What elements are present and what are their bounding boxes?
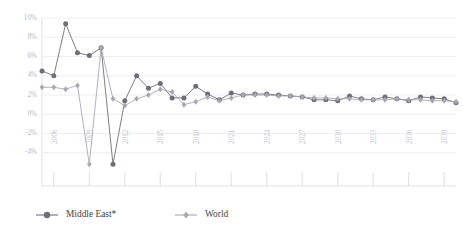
data-point-marker xyxy=(193,99,198,105)
x-axis-tick-label: 2009 xyxy=(86,129,94,144)
x-axis-tick-label: 2012 xyxy=(122,129,130,144)
data-point-marker xyxy=(134,73,139,78)
gridlines-group xyxy=(42,18,456,186)
data-point-marker xyxy=(158,81,163,86)
data-point-marker xyxy=(111,96,116,102)
y-axis-tick-label: 0% xyxy=(27,110,37,118)
data-point-marker xyxy=(181,95,186,100)
x-axis-tick-label: 2027 xyxy=(299,129,307,144)
data-point-marker xyxy=(63,21,68,26)
data-point-marker xyxy=(241,92,246,98)
x-axis-tick-label: 2036 xyxy=(406,129,414,144)
legend-marker-circle xyxy=(44,212,50,218)
x-axis-tick-label: 2015 xyxy=(157,129,165,144)
y-axis-tick-label: 8% xyxy=(27,33,37,41)
series-line-circle xyxy=(42,24,456,165)
data-point-marker xyxy=(229,95,234,101)
data-point-marker xyxy=(229,91,234,96)
x-axis-tick-label: 2024 xyxy=(264,129,272,144)
data-point-marker xyxy=(99,45,104,51)
y-axis-tick-label: 2% xyxy=(27,91,37,99)
y-axis-tick-label: 6% xyxy=(27,52,37,60)
y-axis-tick-labels: 10%8%6%4%2%0%-2%-4% xyxy=(24,14,37,157)
y-axis-tick-label: -4% xyxy=(25,148,37,156)
legend-label[interactable]: World xyxy=(205,209,229,219)
x-axis-tick-label: 2039 xyxy=(441,129,449,144)
chart-container: 10%8%6%4%2%0%-2%-4% 20062009201220152018… xyxy=(0,0,463,245)
legend-marker-diamond xyxy=(183,211,189,218)
x-axis-tick-label: 2033 xyxy=(370,129,378,144)
x-axis-tick-label: 2006 xyxy=(51,129,59,144)
y-axis-tick-label: -2% xyxy=(25,129,37,137)
y-axis-tick-label: 10% xyxy=(24,14,37,22)
data-point-marker xyxy=(75,50,80,55)
line-chart: 10%8%6%4%2%0%-2%-4% 20062009201220152018… xyxy=(0,0,463,245)
series-line-diamond xyxy=(42,48,456,164)
data-point-marker xyxy=(134,96,139,102)
data-point-marker xyxy=(87,161,92,167)
data-point-marker xyxy=(170,95,175,100)
data-point-marker xyxy=(40,84,45,90)
data-point-marker xyxy=(51,84,56,90)
data-series-group xyxy=(40,21,459,167)
data-point-marker xyxy=(158,86,163,92)
data-point-marker xyxy=(146,86,151,91)
chart-legend: Middle East*World xyxy=(36,209,229,219)
data-point-marker xyxy=(63,86,68,92)
data-point-marker xyxy=(371,97,376,103)
x-axis-tick-label: 2021 xyxy=(228,129,236,144)
data-point-marker xyxy=(51,73,56,78)
data-point-marker xyxy=(395,96,400,102)
data-point-marker xyxy=(40,68,45,73)
legend-label[interactable]: Middle East* xyxy=(66,209,117,219)
data-point-marker xyxy=(193,84,198,89)
y-axis-tick-label: 4% xyxy=(27,71,37,79)
data-point-marker xyxy=(75,82,80,88)
data-point-marker xyxy=(122,98,127,103)
x-axis-tick-label: 2030 xyxy=(335,129,343,144)
data-point-marker xyxy=(110,162,115,167)
x-axis-tick-label: 2018 xyxy=(193,129,201,144)
data-point-marker xyxy=(288,93,293,99)
data-point-marker xyxy=(146,92,151,98)
data-point-marker xyxy=(87,53,92,58)
